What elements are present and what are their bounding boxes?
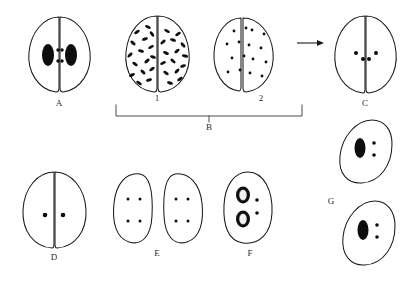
dot-f-2 bbox=[255, 211, 259, 215]
nucleus-a-right bbox=[65, 44, 77, 66]
panel-label-g: G bbox=[328, 196, 335, 206]
cell-outline-g-bottom bbox=[343, 201, 395, 265]
dot-g-top-2 bbox=[372, 153, 376, 157]
dot-c-right-1 bbox=[367, 57, 371, 61]
bracket-b-path bbox=[116, 105, 302, 116]
panel-label-e: E bbox=[154, 248, 160, 258]
panel-a: A bbox=[29, 17, 90, 108]
bracket-b: B bbox=[116, 105, 302, 132]
dot-c-left-1 bbox=[354, 51, 358, 55]
dot-d-right bbox=[61, 213, 66, 218]
group-label-2: 2 bbox=[259, 93, 264, 103]
cell-outline-d-left bbox=[23, 172, 54, 248]
cell-outline-f bbox=[224, 172, 272, 243]
cell-diagram-figure: A bbox=[0, 0, 409, 291]
group-label-1: 1 bbox=[155, 93, 160, 103]
panel-b-group-1: 1 bbox=[126, 16, 189, 103]
arrow-head bbox=[317, 40, 324, 46]
panel-e: E bbox=[114, 174, 203, 258]
dot-d-left bbox=[43, 213, 48, 218]
panel-label-d: D bbox=[51, 252, 58, 262]
panel-label-f: F bbox=[247, 248, 252, 258]
panel-b-group-2: 2 bbox=[214, 18, 273, 103]
cell-g-top bbox=[340, 120, 392, 183]
nucleus-a-left bbox=[42, 44, 54, 66]
dot-a-left-2 bbox=[56, 59, 59, 62]
panel-g: G bbox=[328, 120, 395, 265]
cell-g-bottom bbox=[343, 201, 395, 265]
arrow-right-icon bbox=[297, 40, 324, 46]
panel-label-c: C bbox=[362, 98, 368, 108]
dot-a-left-1 bbox=[56, 48, 59, 51]
panel-label-a: A bbox=[56, 98, 63, 108]
cell-outline-e-left bbox=[114, 174, 153, 243]
cell-outline-g-top bbox=[340, 120, 392, 183]
panel-f: F bbox=[224, 172, 272, 258]
nucleus-g-top bbox=[355, 138, 366, 158]
dot-c-right-2 bbox=[374, 51, 378, 55]
panel-c: C bbox=[335, 16, 396, 108]
dot-c-left-2 bbox=[361, 57, 365, 61]
cell-outline-d-right bbox=[55, 172, 86, 248]
cell-outline-b1-right bbox=[158, 16, 189, 92]
cell-outline-e-right bbox=[164, 174, 203, 243]
cell-outline-b2-left bbox=[214, 18, 241, 91]
cell-diagram-canvas: A bbox=[0, 0, 409, 291]
panel-d: D bbox=[23, 172, 86, 262]
nucleus-g-bottom bbox=[358, 220, 369, 240]
dot-g-bottom-2 bbox=[375, 235, 379, 239]
cell-outline-c-right bbox=[366, 16, 396, 93]
dot-a-right-2 bbox=[60, 59, 63, 62]
dot-g-top-1 bbox=[372, 141, 376, 145]
dot-f-1 bbox=[255, 198, 259, 202]
bracket-label-b: B bbox=[206, 122, 212, 132]
dot-a-right-1 bbox=[60, 48, 63, 51]
ring-nucleus-f-bottom bbox=[236, 211, 250, 228]
cell-outline-b2-right bbox=[243, 18, 273, 92]
cell-outline-c-left bbox=[335, 16, 365, 93]
ring-nucleus-f-top bbox=[236, 187, 250, 204]
dot-g-bottom-1 bbox=[375, 223, 379, 227]
